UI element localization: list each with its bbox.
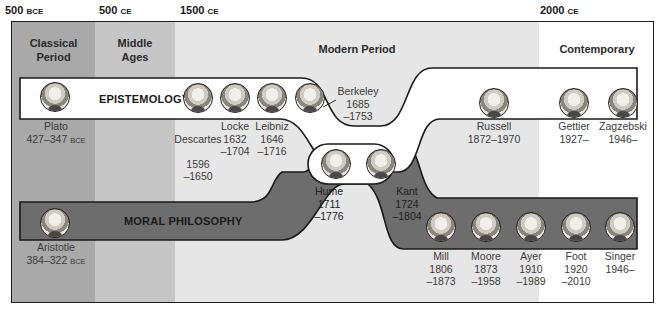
philosopher-name: Hume <box>312 185 346 198</box>
philosopher-name: Zagzebski <box>596 120 650 133</box>
tick-year: 2000 <box>540 4 564 16</box>
philosopher-years: 1685 –1753 <box>335 98 381 123</box>
philosopher-moore: Moore 1873 –1958 <box>466 250 506 288</box>
philosopher-leibniz: Leibniz 1646 –1716 <box>252 120 292 158</box>
philosopher-years: 1927– <box>552 133 596 146</box>
philosopher-hume: Hume 1711 –1776 <box>312 185 346 223</box>
tick-year: 500 <box>5 4 23 16</box>
philosopher-aristotle: Aristotle 384–322 BCE <box>18 241 94 268</box>
philosopher-name: Leibniz <box>252 120 292 133</box>
portrait-zagzebski-icon <box>608 88 638 118</box>
philosopher-name: Kant <box>390 185 424 198</box>
philosopher-name: Aristotle <box>18 241 94 254</box>
tick-1500-ce: 1500 CE <box>180 4 219 16</box>
philosopher-name: Foot <box>556 250 596 263</box>
timeline-frame: Classical Period Middle Ages Modern Peri… <box>11 21 654 303</box>
tick-year: 500 <box>99 4 117 16</box>
portrait-descartes-icon <box>183 83 213 113</box>
tick-suffix: CE <box>120 7 131 16</box>
tick-suffix: CE <box>568 7 579 16</box>
portrait-ayer-icon <box>516 212 546 242</box>
philosopher-name: Ayer <box>511 250 551 263</box>
portrait-moore-icon <box>471 212 501 242</box>
portrait-aristotle-icon <box>40 208 70 238</box>
philosopher-name: Singer <box>600 250 640 263</box>
philosopher-kant: Kant 1724 –1804 <box>390 185 424 223</box>
philosopher-years: 1910 –1989 <box>511 263 551 288</box>
philosopher-russell: Russell 1872–1970 <box>462 120 526 145</box>
philosopher-years: 1873 –1958 <box>466 263 506 288</box>
portrait-berkeley-icon <box>295 83 325 113</box>
philosopher-plato: Plato 427–347 BCE <box>22 120 90 147</box>
philosopher-years: 1596 –1650 <box>173 158 223 183</box>
lane-title-moral-philosophy: MORAL PHILOSOPHY <box>124 215 243 227</box>
philosopher-years: 1806 –1873 <box>421 263 461 288</box>
philosopher-years: 1724 –1804 <box>390 198 424 223</box>
philosopher-years: 1872–1970 <box>462 133 526 146</box>
philosopher-foot: Foot 1920 –2010 <box>556 250 596 288</box>
portrait-foot-icon <box>561 212 591 242</box>
philosopher-years: 1946– <box>600 263 640 276</box>
portrait-leibniz-icon <box>257 83 287 113</box>
philosopher-years: 1711 –1776 <box>312 198 346 223</box>
tick-500-bce: 500 BCE <box>5 4 43 16</box>
portrait-kant-icon <box>366 149 396 179</box>
portrait-russell-icon <box>479 88 509 118</box>
tick-year: 1500 <box>180 4 204 16</box>
portrait-singer-icon <box>605 212 635 242</box>
philosopher-name: Russell <box>462 120 526 133</box>
philosopher-ayer: Ayer 1910 –1989 <box>511 250 551 288</box>
philosopher-name: Gettier <box>552 120 596 133</box>
philosopher-years: 1632 –1704 <box>215 133 255 158</box>
philosopher-name: Berkeley <box>335 85 381 98</box>
era-suffix: BCE <box>70 136 85 145</box>
philosopher-name: Mill <box>421 250 461 263</box>
philosopher-locke: Locke 1632 –1704 <box>215 120 255 158</box>
philosopher-name: Moore <box>466 250 506 263</box>
era-suffix: BCE <box>70 257 85 266</box>
philosopher-berkeley: Berkeley 1685 –1753 <box>335 85 381 123</box>
lane-title-epistemology: EPISTEMOLOGY <box>99 93 189 105</box>
philosopher-singer: Singer 1946– <box>600 250 640 275</box>
tick-2000-ce: 2000 CE <box>540 4 579 16</box>
tick-suffix: CE <box>208 7 219 16</box>
philosopher-mill: Mill 1806 –1873 <box>421 250 461 288</box>
philosopher-gettier: Gettier 1927– <box>552 120 596 145</box>
tick-500-ce: 500 CE <box>99 4 132 16</box>
philosopher-years: 1920 –2010 <box>556 263 596 288</box>
philosopher-years: 1646 –1716 <box>252 133 292 158</box>
portrait-mill-icon <box>426 212 456 242</box>
portrait-locke-icon <box>220 83 250 113</box>
philosopher-years: 1946– <box>596 133 650 146</box>
portrait-hume-icon <box>321 149 351 179</box>
philosopher-zagzebski: Zagzebski 1946– <box>596 120 650 145</box>
tick-suffix: BCE <box>26 7 43 16</box>
philosopher-years: 427–347 <box>26 133 67 145</box>
philosopher-name: Locke <box>215 120 255 133</box>
portrait-plato-icon <box>40 82 70 112</box>
philosopher-name: Plato <box>22 120 90 133</box>
philosopher-years: 384–322 <box>26 254 67 266</box>
portrait-gettier-icon <box>559 88 589 118</box>
